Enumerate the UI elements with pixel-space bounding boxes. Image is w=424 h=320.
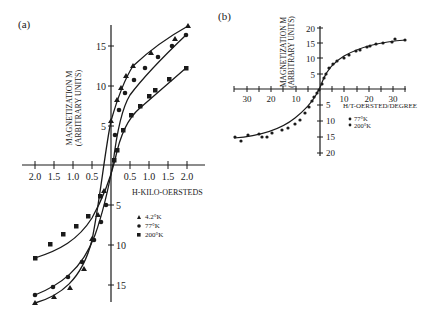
y-tick: 10 <box>116 240 126 251</box>
y-tick: 10 <box>306 54 316 64</box>
y-axis-label-units: (ARBITRARY UNITS) <box>287 16 296 88</box>
legend-item: 77°K <box>145 222 160 230</box>
x-tick: 20 <box>267 94 277 104</box>
x-tick: 1.0 <box>67 171 80 182</box>
y-tick: 15 <box>116 280 126 291</box>
y-tick: 5 <box>311 70 316 80</box>
panel-b: (b) 20 15 10 5 5 10 15 20 <box>218 10 417 158</box>
legend-item: 200°K <box>354 122 371 129</box>
x-tick: 30 <box>243 94 253 104</box>
panel-b-label: (b) <box>218 10 231 23</box>
y-tick: 5 <box>116 200 121 211</box>
figure-canvas: (a) 15 10 5 5 10 15 <box>0 0 424 320</box>
x-tick: 10 <box>292 94 302 104</box>
x-tick: 1.5 <box>48 171 61 182</box>
legend-b: 77°K 200°K <box>349 115 372 129</box>
x-tick: 2.0 <box>29 171 42 182</box>
x-tick: 2.0 <box>181 171 194 182</box>
x-tick: 1.0 <box>143 171 156 182</box>
legend-item: 77°K <box>354 115 368 122</box>
legend-item: 200°K <box>145 231 163 239</box>
x-tick: 1.5 <box>162 171 175 182</box>
y-axis-label: MAGNETIZATION M <box>65 71 74 146</box>
y-tick: 10 <box>326 116 336 126</box>
y-tick: 15 <box>326 132 336 142</box>
y-tick: 5 <box>326 100 331 110</box>
x-tick: 0.5 <box>124 171 137 182</box>
y-tick: 10 <box>96 81 106 92</box>
x-tick: 0.5 <box>86 171 99 182</box>
x-axis-label: H/T-OERSTED/DEGREE <box>343 102 417 110</box>
y-tick: 5 <box>101 121 106 132</box>
y-tick: 15 <box>306 39 316 49</box>
y-tick: 20 <box>306 24 316 34</box>
panel-a-label: (a) <box>18 18 31 31</box>
legend-item: 4.2°K <box>145 213 162 221</box>
y-tick: 20 <box>326 148 336 158</box>
legend-a: 4.2°K 77°K 200°K <box>137 213 163 239</box>
panel-a: (a) 15 10 5 5 10 15 <box>18 18 205 305</box>
x-axis-label: H-KILO-OERSTEDS <box>132 188 203 197</box>
y-axis-label-units: (ARBITRARY UNITS) <box>74 69 83 146</box>
y-tick: 15 <box>96 41 106 52</box>
